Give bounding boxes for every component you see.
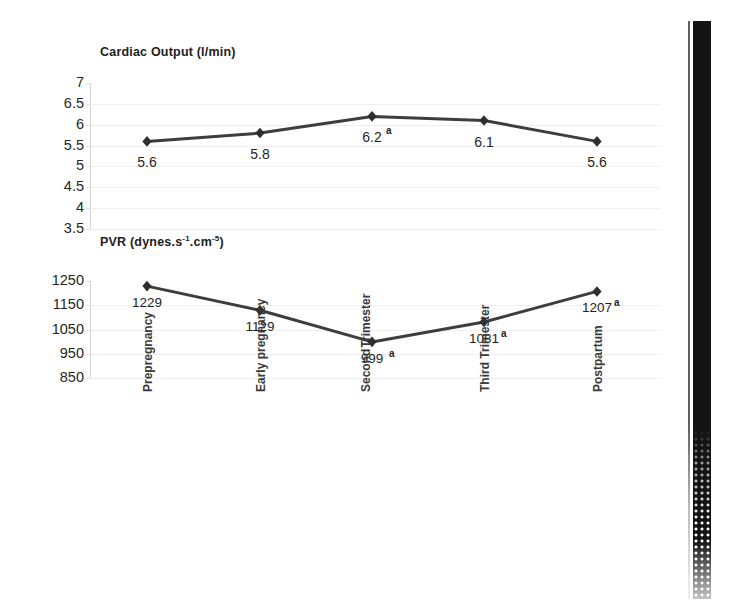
co-y-tick-label: 5.5	[32, 137, 84, 153]
gridline	[90, 378, 660, 379]
category-label-line: Early pregnancy	[254, 299, 268, 392]
gridline	[90, 229, 660, 230]
category-label-line: Trimester	[359, 294, 373, 348]
co-y-tick-label: 7	[32, 74, 84, 90]
pvr-significance-marker: a	[501, 328, 507, 339]
cardiac-output-plot-area	[90, 83, 660, 229]
pvr-y-tick-label: 850	[28, 369, 84, 385]
co-significance-marker: a	[386, 125, 392, 136]
co-point-label: 5.8	[250, 146, 269, 162]
pvr-y-tick-label: 1250	[28, 272, 84, 288]
co-point-label: 5.6	[587, 154, 606, 170]
co-data-marker	[255, 128, 264, 139]
scan-edge-bottom-fade	[693, 540, 711, 599]
co-data-marker	[479, 115, 488, 126]
pvr-significance-marker: a	[389, 348, 395, 359]
co-y-tick-label: 6	[32, 116, 84, 132]
co-data-marker	[367, 111, 376, 122]
pvr-title-suffix: )	[219, 235, 223, 249]
co-data-marker	[142, 136, 151, 147]
pvr-y-tick-label: 1150	[28, 296, 84, 312]
pvr-y-tick-label: 950	[28, 345, 84, 361]
category-label-line: Third Trimester	[478, 305, 492, 392]
pvr-point-label: 1207	[582, 300, 612, 315]
pvr-significance-marker: a	[614, 297, 620, 308]
pvr-chart-title: PVR (dynes.s-1.cm-5)	[100, 234, 224, 249]
co-y-tick-label: 4.5	[32, 178, 84, 194]
pvr-data-marker	[142, 281, 151, 292]
cardiac-output-series	[90, 83, 660, 229]
co-y-tick-label: 4	[32, 199, 84, 215]
co-point-label: 5.6	[137, 154, 156, 170]
co-y-tick-label: 3.5	[32, 220, 84, 236]
pvr-title-mid: .cm	[190, 235, 212, 249]
co-point-label: 6.2	[362, 129, 381, 145]
category-label-line: Second	[359, 349, 373, 392]
category-label-line: Postpartum	[591, 325, 605, 392]
pvr-title-prefix: PVR (dynes.s	[100, 235, 182, 249]
category-label-line: Prepregnancy	[141, 312, 155, 392]
pvr-y-tick-label: 1050	[28, 321, 84, 337]
pvr-data-marker	[592, 286, 601, 297]
co-data-marker	[592, 136, 601, 147]
pvr-title-exponent-1: -1	[182, 234, 190, 243]
cardiac-output-chart-title: Cardiac Output (l/min)	[100, 45, 236, 59]
co-y-tick-label: 6.5	[32, 95, 84, 111]
scanned-figure-page: Cardiac Output (l/min) 76.565.554.543.5 …	[0, 0, 741, 604]
pvr-point-label: 1229	[132, 295, 162, 310]
y-axis-tick	[86, 229, 90, 230]
co-point-label: 6.1	[474, 134, 493, 150]
scan-edge-thin-line	[688, 21, 690, 599]
y-axis-tick	[86, 378, 90, 379]
co-y-tick-label: 5	[32, 157, 84, 173]
